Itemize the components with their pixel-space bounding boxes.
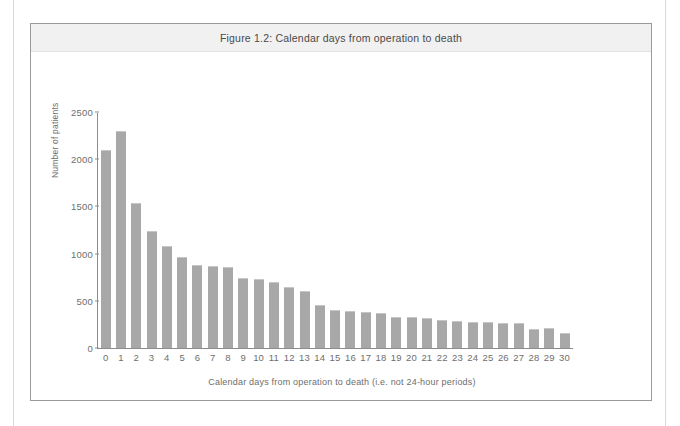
bar-slot	[343, 112, 358, 348]
bar	[315, 305, 325, 348]
bar	[407, 317, 417, 348]
x-axis-ticks: 0123456789101112131415161718192021222324…	[98, 352, 572, 363]
x-tick-label: 18	[373, 352, 388, 363]
x-axis-title: Calendar days from operation to death (i…	[31, 377, 653, 387]
bar	[177, 257, 187, 348]
bar-slot	[542, 112, 557, 348]
bar-slot	[389, 112, 404, 348]
x-tick-label: 22	[435, 352, 450, 363]
figure-frame: Figure 1.2: Calendar days from operation…	[30, 23, 652, 401]
bar	[529, 329, 539, 348]
bar	[147, 231, 157, 348]
bar-slot	[98, 112, 113, 348]
bar	[468, 322, 478, 348]
bar-slot	[174, 112, 189, 348]
bar	[330, 310, 340, 348]
x-tick-label: 15	[327, 352, 342, 363]
bar	[422, 318, 432, 348]
x-tick-label: 17	[358, 352, 373, 363]
x-tick-label: 26	[496, 352, 511, 363]
bar-slot	[526, 112, 541, 348]
bar	[391, 317, 401, 348]
figure-title-band: Figure 1.2: Calendar days from operation…	[31, 24, 651, 52]
bar	[131, 203, 141, 348]
y-tick-label: 500	[77, 295, 93, 306]
bar-slot	[190, 112, 205, 348]
bar	[361, 312, 371, 348]
bar-slot	[465, 112, 480, 348]
x-tick-label: 21	[419, 352, 434, 363]
x-tick-label: 13	[297, 352, 312, 363]
bar-slot	[236, 112, 251, 348]
x-tick-label: 29	[542, 352, 557, 363]
bar-slot	[435, 112, 450, 348]
bar-slot	[480, 112, 495, 348]
bar	[269, 282, 279, 348]
y-tick-label: 1000	[71, 248, 93, 259]
y-tick-label: 2000	[71, 154, 93, 165]
x-tick-label: 20	[404, 352, 419, 363]
x-tick-label: 30	[557, 352, 572, 363]
bar	[498, 323, 508, 348]
x-tick-label: 10	[251, 352, 266, 363]
bar	[223, 267, 233, 348]
x-tick-label: 1	[113, 352, 128, 363]
page-edge-rule-left	[13, 0, 14, 426]
bar-slot	[373, 112, 388, 348]
figure-title: Figure 1.2: Calendar days from operation…	[220, 32, 462, 44]
x-tick-label: 14	[312, 352, 327, 363]
bar-slot	[220, 112, 235, 348]
bar-slot	[557, 112, 572, 348]
bar	[101, 150, 111, 348]
y-tick-label: 2500	[71, 107, 93, 118]
bar	[437, 320, 447, 348]
bar	[300, 291, 310, 348]
bar	[452, 321, 462, 348]
x-tick-label: 2	[129, 352, 144, 363]
page-edge-rule-right	[665, 0, 666, 426]
x-tick-label: 7	[205, 352, 220, 363]
x-tick-label: 5	[174, 352, 189, 363]
x-tick-label: 4	[159, 352, 174, 363]
bar-slot	[144, 112, 159, 348]
bar-slot	[450, 112, 465, 348]
x-tick-label: 3	[144, 352, 159, 363]
bar	[284, 287, 294, 348]
x-tick-label: 24	[465, 352, 480, 363]
y-axis-ticks: 05001000150020002500	[59, 107, 99, 347]
y-tick-label: 1500	[71, 201, 93, 212]
bar-slot	[297, 112, 312, 348]
bar-series	[98, 112, 572, 348]
x-tick-label: 6	[190, 352, 205, 363]
x-tick-label: 12	[282, 352, 297, 363]
bar-slot	[511, 112, 526, 348]
bar-slot	[266, 112, 281, 348]
bar	[162, 246, 172, 348]
x-tick-label: 28	[526, 352, 541, 363]
bar-slot	[404, 112, 419, 348]
bar	[116, 131, 126, 348]
bar-slot	[205, 112, 220, 348]
bar	[560, 333, 570, 348]
x-tick-label: 11	[266, 352, 281, 363]
chart-plot-area: Number of patients 05001000150020002500 …	[31, 52, 653, 401]
bar-slot	[159, 112, 174, 348]
bar-slot	[327, 112, 342, 348]
x-tick-label: 19	[389, 352, 404, 363]
bar	[345, 311, 355, 348]
bar-slot	[129, 112, 144, 348]
bar-slot	[251, 112, 266, 348]
bar-slot	[496, 112, 511, 348]
y-tick-label: 0	[88, 343, 93, 354]
bar	[238, 278, 248, 348]
bar-slot	[282, 112, 297, 348]
bar	[192, 265, 202, 348]
x-tick-label: 25	[480, 352, 495, 363]
bar	[514, 323, 524, 348]
bar-slot	[419, 112, 434, 348]
x-tick-label: 8	[220, 352, 235, 363]
x-tick-label: 9	[236, 352, 251, 363]
bar	[483, 322, 493, 348]
x-axis-line	[97, 348, 573, 349]
x-tick-label: 16	[343, 352, 358, 363]
